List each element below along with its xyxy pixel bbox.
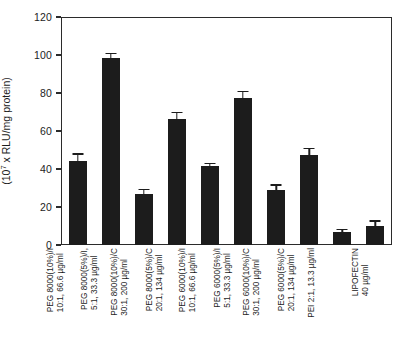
bar <box>135 194 153 245</box>
y-axis-label-line2-post: x RLU/mg protein) <box>0 77 12 165</box>
bar-series <box>61 17 392 245</box>
x-axis-label: PEG 6000(5%)/I5:1, 33.3 µg/ml <box>213 248 232 308</box>
error-bar-cap <box>304 148 315 149</box>
x-axis-label-line: 5:1, 33.3 µg/ml <box>89 248 99 310</box>
x-axis-label-line: 30:1, 200 µg/ml <box>119 248 129 316</box>
error-bar-cap <box>72 153 83 154</box>
x-axis-label-line: 20:1, 134 µg/ml <box>155 248 165 311</box>
y-axis-tick-label: 80 <box>40 87 52 99</box>
error-bar-line <box>342 230 343 232</box>
luciferase-activity-bar-chart: Luciferase activity (107 x RLU/mg protei… <box>0 0 397 339</box>
x-axis-label-line: 10:1, 66.6 µg/ml <box>187 248 197 312</box>
x-axis-labels: PEG 8000(10%)/I10:1, 66.6 µg/mlPEG 8000(… <box>61 245 392 339</box>
y-axis-tick-label: 20 <box>40 201 52 213</box>
error-bar-cap <box>370 220 381 221</box>
x-axis-label: PEG 6000(10%)/I10:1, 66.6 µg/ml <box>178 248 197 312</box>
bar <box>201 166 219 245</box>
bar-group <box>260 17 293 245</box>
x-axis-label-line: PEG 8000(10%)/C <box>110 248 120 316</box>
y-axis-label-line2-pre: (10 <box>0 170 12 185</box>
x-axis-label-line: 10:1, 66.6 µg/ml <box>55 248 65 312</box>
x-axis-label: LIPOFECTIN40 µg/ml <box>351 248 370 296</box>
y-axis-label-line2: (107 x RLU/mg protein) <box>0 77 13 184</box>
bar <box>267 190 285 245</box>
x-axis-label: PEG 8000(5%)/C20:1, 134 µg/ml <box>145 248 164 311</box>
y-axis-label-exponent: 7 <box>0 165 8 169</box>
y-axis-tick-label: 40 <box>40 163 52 175</box>
error-bar-line <box>209 164 210 166</box>
error-bar-line <box>110 54 111 57</box>
x-axis-label-line: 5:1, 33.3 µg/ml <box>223 248 233 308</box>
error-bar-cap <box>171 112 182 113</box>
x-axis-label: PEI 2:1, 13.3 µg/ml <box>307 248 317 318</box>
bar <box>102 58 120 245</box>
x-axis-label-line: PEG 8000(10%)/I <box>45 248 55 312</box>
x-axis-label-line: PEG 6000(10%)/I <box>178 248 188 312</box>
bar-group <box>61 17 94 245</box>
x-axis-label: PEG 6000(5%)/C20:1, 134 µg/ml <box>278 248 297 311</box>
x-axis-label-line: 30:1, 200 µg/ml <box>252 248 262 316</box>
x-axis-label-line: 40 µg/ml <box>361 248 371 296</box>
error-bar-cap <box>204 163 215 164</box>
bar <box>168 119 186 245</box>
y-axis-tick-label: 100 <box>34 49 52 61</box>
bar-group <box>160 17 193 245</box>
x-axis-label-line: LIPOFECTIN <box>351 248 361 296</box>
x-axis-label-line: PEG 8000(5%)/C <box>145 248 155 311</box>
error-bar-cap <box>138 189 149 190</box>
bar-group <box>293 17 326 245</box>
bar <box>69 161 87 245</box>
x-axis-label: PEG 8000(10%)/I10:1, 66.6 µg/ml <box>45 248 64 312</box>
error-bar-line <box>309 149 310 155</box>
error-bar-cap <box>337 229 348 230</box>
x-axis-label-line: PEI 2:1, 13.3 µg/ml <box>307 248 317 318</box>
error-bar-line <box>176 113 177 119</box>
error-bar-line <box>275 186 276 190</box>
x-axis-label-line: 20:1, 134 µg/ml <box>287 248 297 311</box>
error-bar-line <box>242 92 243 98</box>
y-axis-tick-label: 120 <box>34 11 52 23</box>
y-axis-tick-label: 60 <box>40 125 52 137</box>
bar-group <box>359 17 392 245</box>
bar-group <box>94 17 127 245</box>
bar <box>333 232 351 245</box>
bar <box>366 226 384 245</box>
x-axis-label: PEG 6000(10%)/C30:1, 200 µg/ml <box>242 248 261 316</box>
bar <box>234 98 252 245</box>
error-bar-line <box>143 190 144 193</box>
x-axis-label-line: PEG 6000(10%)/C <box>242 248 252 316</box>
x-axis-label-slot: LIPOFECTIN40 µg/ml <box>359 245 392 339</box>
bar-group <box>227 17 260 245</box>
error-bar-cap <box>238 91 249 92</box>
x-axis-label-line: PEG 6000(5%)/I <box>213 248 223 308</box>
x-axis-label: PEG 8000(5%)/I,5:1, 33.3 µg/ml <box>80 248 99 310</box>
bar <box>300 155 318 245</box>
y-axis-label: Luciferase activity (107 x RLU/mg protei… <box>0 77 13 184</box>
error-bar-line <box>375 222 376 226</box>
x-axis-label-line: PEG 6000(5%)/C <box>278 248 288 311</box>
error-bar-line <box>77 155 78 162</box>
bar-group <box>127 17 160 245</box>
error-bar-cap <box>271 184 282 185</box>
error-bar-cap <box>105 53 116 54</box>
x-axis-label: PEG 8000(10%)/C30:1, 200 µg/ml <box>110 248 129 316</box>
x-axis-label-line: PEG 8000(5%)/I, <box>80 248 90 310</box>
bar-group <box>193 17 226 245</box>
bar-group <box>326 17 359 245</box>
